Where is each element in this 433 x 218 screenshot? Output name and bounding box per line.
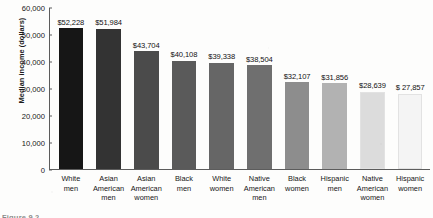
bar-slot: $38,504 [247,65,272,169]
bar [322,83,347,169]
bar-slot: $39,338 [209,63,234,169]
y-tick-label: 0 [41,166,45,175]
y-tick-mark [49,62,52,63]
bar-slot: $ 27,857 [398,94,423,169]
figure-caption: Figure 9.2 [2,213,39,218]
bar-value-label: $28,639 [359,81,386,90]
bar-slot: $32,107 [285,82,310,169]
y-tick-label: 40,000 [22,58,45,67]
bar-value-label: $43,704 [133,41,160,50]
bar-value-label: $39,338 [208,52,235,61]
bar [134,51,159,169]
y-tick-mark [49,35,52,36]
bar-slot: $43,704 [134,51,159,169]
bar [398,94,423,169]
bar-slot: $52,228 [59,28,84,169]
y-tick-label: 10,000 [22,139,45,148]
bar [209,63,234,169]
bar-value-label: $32,107 [284,72,311,81]
bar [59,28,84,169]
y-tick-label: 30,000 [22,85,45,94]
plot-area: 60,00050,00040,00030,00020,00010,0000$52… [49,8,430,170]
x-axis-line [49,169,430,170]
bar-value-label: $40,108 [171,50,198,59]
bar-value-label: $51,984 [95,18,122,27]
bar-value-label: $31,856 [321,73,348,82]
y-tick-label: 60,000 [22,4,45,13]
figure-bar-chart: Median income (dollars) 60,00050,00040,0… [0,0,433,218]
bar [172,61,197,169]
bar [360,92,385,169]
bar-slot: $31,856 [322,83,347,169]
x-axis-category-label: Hispanic women [388,174,432,193]
bar [247,65,272,169]
bar-slot: $28,639 [360,92,385,169]
y-tick-mark [49,170,52,171]
bar-value-label: $38,504 [246,55,273,64]
bar [285,82,310,169]
bar-value-label: $ 27,857 [396,83,425,92]
y-tick-label: 20,000 [22,112,45,121]
bar-slot: $51,984 [96,29,121,169]
bar-value-label: $52,228 [57,18,84,27]
y-tick-label: 50,000 [22,31,45,40]
y-tick-mark [49,116,52,117]
y-tick-mark [49,89,52,90]
y-tick-mark [49,143,52,144]
bar-slot: $40,108 [172,61,197,169]
bar [96,29,121,169]
y-tick-mark [49,8,52,9]
